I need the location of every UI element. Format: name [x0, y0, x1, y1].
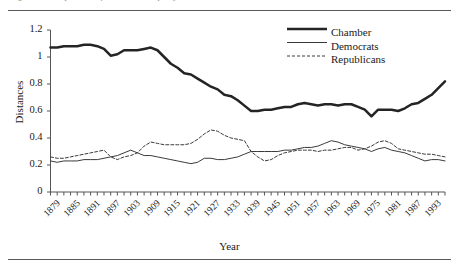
legend-item-republicans[interactable]: Republicans [331, 49, 385, 62]
series-line-republicans [51, 130, 446, 161]
legend-item-label: Republicans [331, 53, 385, 65]
data-series [51, 45, 446, 164]
series-line-chamber [51, 45, 446, 117]
y-tick-label: 0.2 [17, 158, 43, 169]
y-axis-title: Distances [13, 67, 25, 137]
x-axis-title: Year [0, 240, 459, 252]
y-tick-label: 0 [17, 185, 43, 196]
figure-container: Figure 1. Comparison of chamber and part… [0, 0, 459, 268]
series-line-democrats [51, 141, 446, 164]
legend-item-chamber[interactable]: Chamber [331, 22, 371, 35]
legend-item-democrats[interactable]: Democrats [331, 36, 379, 49]
y-tick-label: 1.2 [17, 23, 43, 34]
legend-swatches [287, 29, 327, 56]
y-tick-label: 1 [17, 50, 43, 61]
chart-plot [0, 0, 459, 268]
